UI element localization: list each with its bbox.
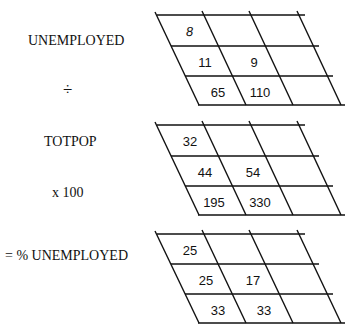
cell-value: 17 (246, 273, 260, 288)
cell-value: 195 (203, 195, 225, 210)
grid-diagram: 8 11 9 65 110 32 44 54 195 330 25 25 17 … (0, 0, 351, 331)
cell-value: 44 (198, 165, 212, 180)
cell-value: 65 (211, 85, 225, 100)
cell-value: 110 (250, 85, 271, 100)
cell-value: 25 (199, 273, 213, 288)
cell-value: 33 (211, 303, 225, 318)
cell-value: 54 (246, 165, 260, 180)
cell-value: 33 (257, 303, 271, 318)
cell-value: 9 (250, 55, 257, 70)
cell-value: 32 (183, 134, 197, 149)
cell-value: 11 (198, 55, 212, 70)
cell-value: 330 (249, 195, 271, 210)
cell-value: 8 (185, 24, 194, 39)
cell-value: 25 (183, 243, 197, 258)
